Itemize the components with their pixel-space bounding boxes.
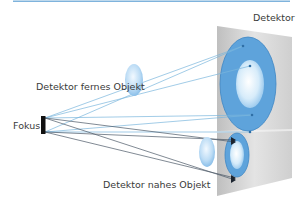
- detector-label: Detektor: [253, 12, 295, 23]
- near-object: [199, 137, 215, 167]
- projection-diagram: Detektor Detektor fernes Objekt Fokus De…: [0, 0, 304, 198]
- near-object-image-inner: [230, 141, 244, 169]
- near-object-detector-label: Detektor nahes Objekt: [103, 179, 211, 190]
- far-object-detector-label: Detektor fernes Objekt: [36, 81, 145, 92]
- focus-bar: [41, 116, 46, 134]
- focus-label: Fokus: [13, 120, 40, 131]
